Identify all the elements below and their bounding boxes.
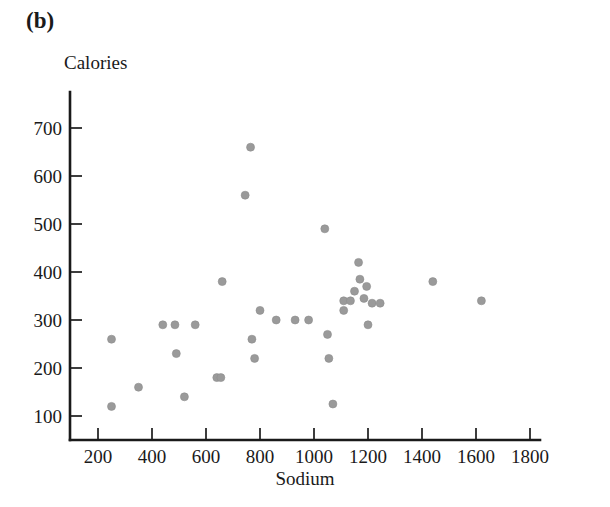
data-point [291,316,299,324]
data-point [172,350,180,358]
y-tick-label: 700 [34,118,63,139]
data-point [108,402,116,410]
data-point [191,321,199,329]
data-point [251,354,259,362]
data-point [135,383,143,391]
x-tick-label: 1400 [403,446,441,467]
data-point [180,393,188,401]
data-point [324,330,332,338]
y-tick-group: 100200300400500600700 [34,118,83,427]
data-point [351,287,359,295]
data-point [241,191,249,199]
data-point [346,297,354,305]
y-tick-label: 200 [34,358,63,379]
scatter-plot-figure: (b) Calories Sodium 10020030040050060070… [0,0,610,507]
data-point [340,306,348,314]
data-point [305,316,313,324]
data-point [272,316,280,324]
x-tick-group: 20040060080010001200140016001800 [84,428,549,467]
y-tick-label: 600 [34,166,63,187]
data-point [364,321,372,329]
x-tick-label: 1200 [349,446,387,467]
data-point [477,297,485,305]
data-point [376,299,384,307]
x-tick-label: 1800 [511,446,549,467]
data-point [256,306,264,314]
data-point [360,294,368,302]
data-point [329,400,337,408]
y-tick-label: 500 [34,214,63,235]
data-point [159,321,167,329]
y-tick-label: 100 [34,406,63,427]
y-tick-label: 400 [34,262,63,283]
data-point [247,143,255,151]
data-point [325,354,333,362]
data-point [171,321,179,329]
data-point [429,278,437,286]
data-point [356,275,364,283]
x-tick-label: 1600 [457,446,495,467]
data-point [217,374,225,382]
x-tick-label: 800 [246,446,275,467]
y-tick-label: 300 [34,310,63,331]
data-point [321,225,329,233]
data-point-group [108,143,486,410]
plot-area: 100200300400500600700 200400600800100012… [0,0,610,507]
data-point [248,335,256,343]
data-point [355,258,363,266]
data-point [368,299,376,307]
x-tick-label: 200 [84,446,113,467]
data-point [363,282,371,290]
data-point [218,278,226,286]
x-tick-label: 400 [138,446,167,467]
x-tick-label: 600 [192,446,221,467]
data-point [108,335,116,343]
x-tick-label: 1000 [295,446,333,467]
